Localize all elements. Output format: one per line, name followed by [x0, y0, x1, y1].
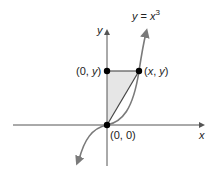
- cubic-diagram: y = x3 y x (0, y) (x, y) (0, 0): [0, 0, 215, 174]
- x-axis-label: x: [198, 129, 205, 141]
- point-0-y: [104, 68, 110, 74]
- y-axis-label: y: [96, 24, 104, 36]
- point-origin: [104, 122, 110, 128]
- point-0-y-label: (0, y): [76, 65, 101, 77]
- curve-label: y = x3: [131, 8, 161, 22]
- origin-label: (0, 0): [110, 129, 136, 141]
- point-x-y-label: (x, y): [144, 65, 168, 77]
- point-x-y: [136, 68, 142, 74]
- cubic-curve-tail: [78, 156, 80, 161]
